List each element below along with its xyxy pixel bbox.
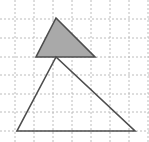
geometry-figure [0, 0, 149, 142]
figure-canvas [0, 0, 149, 142]
